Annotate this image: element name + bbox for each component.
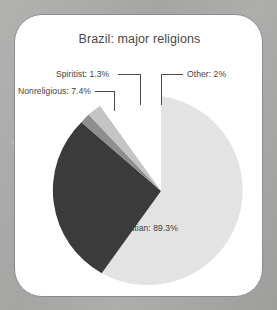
leader-line-spiritist bbox=[118, 74, 140, 105]
pie-label-other: Other: 2% bbox=[187, 69, 226, 79]
pie-label-nonreligious: Nonreligious: 7.4% bbox=[18, 86, 91, 96]
pie-chart-plot bbox=[15, 15, 263, 297]
screenshot-root: Brazil: major religions bbox=[0, 0, 277, 310]
pie-label-christian: Christian: 89.3% bbox=[114, 223, 178, 233]
pie-label-spiritist: Spiritist: 1.3% bbox=[56, 69, 109, 79]
pie-chart-svg bbox=[15, 15, 263, 297]
chart-card: Brazil: major religions bbox=[14, 14, 263, 297]
